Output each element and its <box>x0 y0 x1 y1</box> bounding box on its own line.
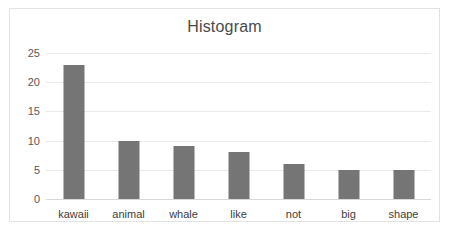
bar-group: kawaii <box>46 53 101 199</box>
chart-title: Histogram <box>10 18 439 36</box>
x-axis-category-label: animal <box>112 208 144 220</box>
y-axis-tick-label: 20 <box>28 76 40 88</box>
y-axis-tick-label: 15 <box>28 105 40 117</box>
y-axis-tick-label: 25 <box>28 47 40 59</box>
x-axis-category-label: shape <box>389 208 419 220</box>
x-axis-category-label: not <box>286 208 301 220</box>
x-axis-category-label: big <box>341 208 356 220</box>
bar[interactable] <box>338 170 359 199</box>
bar-group: not <box>266 53 321 199</box>
x-axis-category-label: like <box>230 208 247 220</box>
y-axis-tick-label: 0 <box>34 193 40 205</box>
plot-area: 0510152025 kawaiianimalwhalelikenotbigsh… <box>46 53 431 199</box>
bar-group: animal <box>101 53 156 199</box>
x-axis-category-label: kawaii <box>58 208 89 220</box>
bar[interactable] <box>283 164 304 199</box>
gridline <box>46 199 431 200</box>
bar-group: shape <box>376 53 431 199</box>
y-axis-tick-label: 5 <box>34 164 40 176</box>
bars-layer: kawaiianimalwhalelikenotbigshape <box>46 53 431 199</box>
y-axis-tick-label: 10 <box>28 135 40 147</box>
bar[interactable] <box>228 152 249 199</box>
bar-group: whale <box>156 53 211 199</box>
chart-frame: Histogram 0510152025 kawaiianimalwhaleli… <box>9 8 440 222</box>
bar-group: like <box>211 53 266 199</box>
bar[interactable] <box>393 170 414 199</box>
bar[interactable] <box>118 141 139 199</box>
bar[interactable] <box>173 146 194 199</box>
bar-group: big <box>321 53 376 199</box>
bar[interactable] <box>63 65 84 199</box>
x-axis-category-label: whale <box>169 208 198 220</box>
